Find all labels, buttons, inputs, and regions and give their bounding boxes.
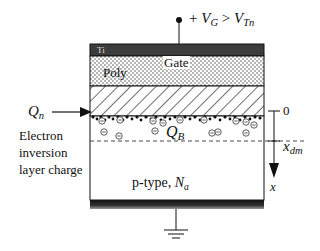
poly-label: Poly <box>103 66 127 79</box>
depletion-depth-label: xdm <box>283 139 303 157</box>
ti-label: Ti <box>97 46 105 55</box>
gate-terminal <box>176 17 182 44</box>
back-contact <box>90 200 264 209</box>
ground-icon <box>164 209 188 238</box>
oxide-layer <box>90 86 264 116</box>
axis-origin-label: 0 <box>283 104 290 117</box>
qn-arrow <box>52 107 92 117</box>
substrate-label: p-type, Na <box>132 176 189 192</box>
qb-label: QB <box>166 124 184 142</box>
gate-label: Gate <box>163 56 190 69</box>
qn-label: Qn <box>28 104 44 122</box>
depth-axis <box>268 111 280 178</box>
gate-voltage-label: + VG > VTn <box>189 11 254 29</box>
x-direction-label: x <box>270 180 276 193</box>
inversion-description: Electron inversion layer charge <box>19 127 83 178</box>
mos-capacitor-diagram <box>0 0 320 251</box>
